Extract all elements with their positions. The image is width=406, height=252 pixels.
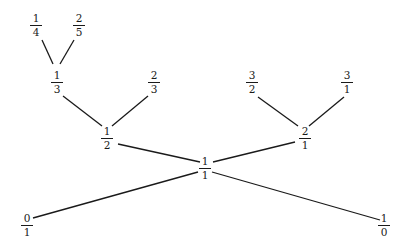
- tree-edge: [63, 96, 102, 126]
- numerator: 1: [26, 13, 46, 24]
- tree-edge: [309, 97, 344, 126]
- tree-edge: [60, 40, 74, 64]
- denominator: 3: [47, 84, 67, 95]
- denominator: 1: [337, 84, 357, 95]
- tree-edge: [213, 142, 295, 162]
- tree-edges: [0, 0, 406, 252]
- tree-edge: [33, 172, 198, 218]
- fraction-node: 12: [97, 126, 117, 151]
- fraction-node: 10: [374, 213, 394, 238]
- denominator: 1: [295, 140, 315, 151]
- denominator: 2: [97, 140, 117, 151]
- numerator: 0: [17, 213, 37, 224]
- fraction-node: 13: [47, 70, 67, 95]
- tree-edge: [42, 40, 53, 64]
- denominator: 1: [195, 170, 215, 181]
- fraction-node: 25: [69, 13, 89, 38]
- fraction-node: 21: [295, 126, 315, 151]
- numerator: 2: [144, 70, 164, 81]
- fraction-node: 32: [242, 70, 262, 95]
- denominator: 2: [242, 84, 262, 95]
- denominator: 3: [144, 84, 164, 95]
- denominator: 4: [26, 27, 46, 38]
- numerator: 1: [195, 156, 215, 167]
- numerator: 2: [295, 126, 315, 137]
- numerator: 1: [97, 126, 117, 137]
- numerator: 3: [242, 70, 262, 81]
- tree-edge: [258, 97, 298, 126]
- fraction-node: 14: [26, 13, 46, 38]
- fraction-node: 11: [195, 156, 215, 181]
- fraction-node: 31: [337, 70, 357, 95]
- numerator: 3: [337, 70, 357, 81]
- numerator: 1: [47, 70, 67, 81]
- fraction-node: 01: [17, 213, 37, 238]
- tree-edge: [212, 172, 380, 220]
- denominator: 0: [374, 227, 394, 238]
- numerator: 1: [374, 213, 394, 224]
- numerator: 2: [69, 13, 89, 24]
- denominator: 1: [17, 227, 37, 238]
- tree-edge: [112, 96, 148, 126]
- fraction-node: 23: [144, 70, 164, 95]
- denominator: 5: [69, 27, 89, 38]
- tree-edge: [118, 144, 200, 162]
